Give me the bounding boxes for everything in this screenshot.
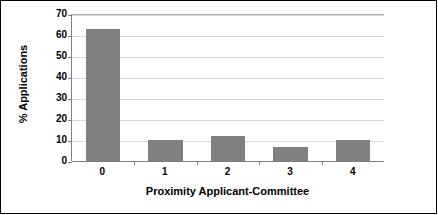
- y-tick-label: 30: [39, 93, 67, 103]
- x-tick-label: 0: [71, 166, 134, 178]
- bar-1[interactable]: [148, 140, 182, 161]
- y-tick-label: 70: [39, 9, 67, 19]
- bars-layer: [72, 15, 384, 161]
- bar-0[interactable]: [86, 29, 120, 161]
- bar-3[interactable]: [273, 147, 307, 161]
- x-tick-label: 4: [321, 166, 384, 178]
- x-tick-mark: [259, 161, 260, 165]
- bar-slot: [322, 15, 384, 161]
- y-tick-label: 0: [39, 156, 67, 166]
- gridline-0: [72, 161, 384, 162]
- y-tick-label: 20: [39, 114, 67, 124]
- y-axis-title: % Applications: [11, 1, 35, 166]
- y-tick-label: 50: [39, 51, 67, 61]
- x-tick-label: 1: [134, 166, 197, 178]
- x-tick-mark: [322, 161, 323, 165]
- x-axis-tick-labels: 01234: [71, 166, 384, 180]
- x-tick-label: 3: [259, 166, 322, 178]
- bar-slot: [197, 15, 259, 161]
- chart-frame: % Applications 010203040506070 01234 Pro…: [0, 0, 437, 214]
- bar-slot: [72, 15, 134, 161]
- y-axis-title-label: % Applications: [17, 44, 29, 122]
- bar-4[interactable]: [336, 140, 370, 161]
- x-tick-mark: [134, 161, 135, 165]
- bar-2[interactable]: [211, 136, 245, 161]
- y-tick-label: 10: [39, 135, 67, 145]
- bar-slot: [259, 15, 321, 161]
- y-tick-mark-0: [68, 162, 72, 163]
- x-axis-title: Proximity Applicant-Committee: [71, 185, 384, 197]
- plot-area: [71, 14, 384, 161]
- x-tick-label: 2: [196, 166, 259, 178]
- y-tick-label: 60: [39, 30, 67, 40]
- y-tick-label: 40: [39, 72, 67, 82]
- bar-slot: [134, 15, 196, 161]
- y-axis-tick-labels: 010203040506070: [39, 14, 67, 161]
- x-tick-mark: [197, 161, 198, 165]
